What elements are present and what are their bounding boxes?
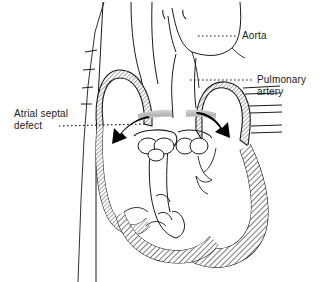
aorta-label-text: Aorta <box>242 30 267 41</box>
atrial-septal-defect-label-line1: Atrial septal <box>14 108 68 119</box>
mitral-valve <box>176 138 208 154</box>
heart-diagram-figure: Aorta Pulmonary artery Atrial septal def… <box>0 0 323 282</box>
pulmonary-artery-label-line1: Pulmonary <box>257 74 306 85</box>
atrial-septal-defect-label-line2: defect <box>14 120 42 131</box>
diagram-canvas: Aorta Pulmonary artery Atrial septal def… <box>0 0 323 282</box>
pulmonary-artery-label-line2: artery <box>257 86 283 97</box>
